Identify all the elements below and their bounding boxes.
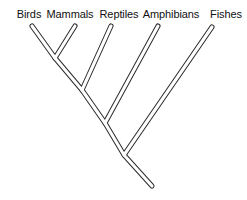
cladogram-tree-graphic bbox=[0, 0, 247, 200]
tip-label-birds: Birds bbox=[17, 8, 42, 20]
branch-clade-birds-mammals-outline bbox=[32, 26, 75, 58]
branch-fill-layer bbox=[32, 26, 212, 186]
tip-label-fishes: Fishes bbox=[210, 8, 242, 20]
tip-label-mammals: Mammals bbox=[47, 8, 94, 20]
cladogram-figure: Birds Mammals Reptiles Amphibians Fishes bbox=[0, 0, 247, 200]
branch-clade-reptiles-outline bbox=[55, 26, 111, 90]
branch-clade-reptiles-fill bbox=[55, 26, 111, 90]
tip-label-reptiles: Reptiles bbox=[100, 8, 139, 20]
branch-clade-amphibians-fill bbox=[82, 26, 158, 123]
branch-root-stem-fill bbox=[124, 155, 152, 186]
tip-label-amphibians: Amphibians bbox=[143, 8, 199, 20]
